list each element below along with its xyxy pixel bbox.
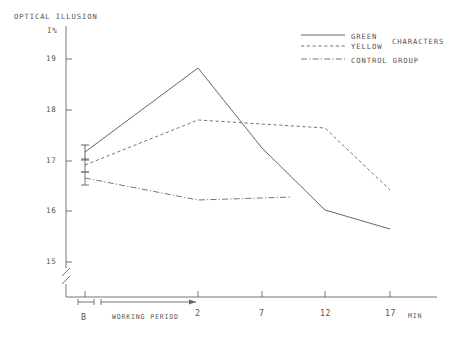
working-period-arrow bbox=[101, 299, 196, 305]
chart-canvas bbox=[0, 0, 449, 337]
series-line-green bbox=[85, 68, 390, 229]
y-axis-break-icon bbox=[62, 268, 70, 284]
series-line-control-group bbox=[85, 178, 292, 200]
optical-illusion-line-chart: OPTICAL ILLUSION I% 19 18 17 16 15 B 2 7… bbox=[0, 0, 449, 337]
series-errorbar-yellow bbox=[81, 159, 89, 172]
series-errorbar-green bbox=[81, 145, 89, 160]
baseline-bracket bbox=[78, 299, 94, 305]
series-line-yellow bbox=[85, 120, 390, 190]
